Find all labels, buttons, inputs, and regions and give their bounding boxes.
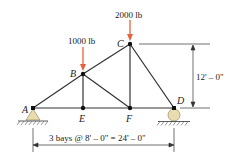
truss-diagram: A E F D B C 1000 lb 2000 lb 12' – 0" 3 b… (0, 0, 238, 163)
node-A (31, 106, 35, 110)
node-label-B: B (70, 68, 76, 79)
node-F (128, 106, 132, 110)
span-dimension-label: 3 bays @ 8' – 0" = 24' – 0" (49, 133, 146, 143)
node-label-A: A (21, 104, 29, 115)
node-B (81, 72, 85, 76)
node-label-D: D (176, 95, 185, 106)
load-arrow-C-icon (127, 20, 133, 41)
node-label-C: C (117, 38, 124, 49)
member-CD (130, 44, 174, 108)
node-label-E: E (78, 113, 85, 124)
node-D (172, 106, 176, 110)
node-label-F: F (125, 113, 133, 124)
member-AB (33, 74, 83, 108)
node-E (81, 106, 85, 110)
height-dimension-label: 12' – 0" (196, 72, 224, 82)
member-BF (83, 74, 130, 108)
roller-support-icon (157, 109, 190, 126)
node-C (128, 42, 132, 46)
load-label-C: 2000 lb (115, 10, 143, 20)
truss-nodes (31, 42, 176, 110)
load-arrow-B-icon (80, 47, 86, 71)
truss-members (33, 44, 174, 108)
load-label-B: 1000 lb (68, 36, 96, 46)
